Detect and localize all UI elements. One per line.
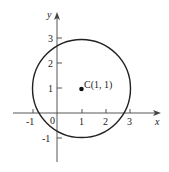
x-tick-label-3: 3 (127, 116, 132, 127)
y-tick-label-neg1: -1 (42, 133, 50, 144)
y-tick-label-1: 1 (48, 83, 53, 94)
y-tick-label-3: 3 (48, 33, 53, 44)
y-axis-label: y (46, 9, 52, 20)
x-tick-label-neg1: -1 (26, 116, 34, 127)
y-ticks (57, 38, 62, 138)
x-axis-label: x (154, 116, 160, 127)
center-label: C(1, 1) (84, 79, 112, 91)
y-tick-label-2: 2 (48, 58, 53, 69)
origin-label: 0 (50, 115, 55, 126)
x-tick-label-1: 1 (79, 116, 84, 127)
x-tick-label-2: 2 (103, 116, 108, 127)
coordinate-plane-diagram: -1 0 1 2 3 x 3 2 1 -1 y C(1, 1) (0, 0, 169, 172)
x-ticks (33, 109, 130, 113)
